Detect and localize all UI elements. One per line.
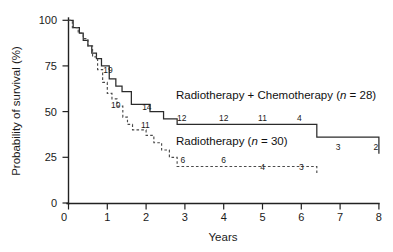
y-axis-ticks: [63, 20, 69, 203]
at-risk-count: 6: [181, 155, 186, 165]
series-label-radiotherapy-chemotherapy: Radiotherapy + Chemotherapy (n = 28): [176, 89, 376, 101]
series-label-radiotherapy: Radiotherapy (n = 30): [176, 135, 288, 147]
at-risk-count: 14: [142, 102, 152, 112]
x-axis-ticks: [69, 204, 379, 210]
at-risk-count: 3: [299, 162, 304, 172]
at-risk-count: 12: [177, 113, 187, 123]
x-tick-label-0: 0: [61, 211, 67, 223]
x-tick-label-3: 3: [182, 211, 188, 223]
survival-curve-radiotherapy-chemotherapy: [69, 20, 379, 153]
at-risk-count: 12: [219, 113, 229, 123]
at-risk-count: 10: [111, 100, 121, 110]
x-tick-label-2: 2: [143, 211, 149, 223]
y-axis-title: Probability of survival (%): [10, 46, 22, 176]
x-tick-label-1: 1: [104, 211, 110, 223]
at-risk-count: 11: [141, 120, 150, 130]
at-risk-count: 2: [373, 142, 378, 152]
at-risk-count: 11: [258, 113, 267, 123]
at-risk-count: 3: [336, 142, 341, 152]
at-risk-count: 19: [103, 65, 113, 75]
survival-chart-figure: 100 75 50 25 0 0 1 2 3 4 5 6 7 8 Years P…: [0, 0, 393, 252]
x-tick-label-7: 7: [337, 211, 343, 223]
at-risk-count: 4: [297, 113, 302, 123]
y-tick-label-50: 50: [45, 106, 57, 118]
x-tick-label-5: 5: [259, 211, 265, 223]
at-risk-count: 6: [221, 155, 226, 165]
y-tick-label-0: 0: [51, 197, 57, 209]
x-axis-title: Years: [209, 231, 238, 243]
y-tick-label-100: 100: [39, 14, 57, 26]
x-tick-label-4: 4: [221, 211, 227, 223]
x-tick-label-8: 8: [376, 211, 382, 223]
x-tick-label-6: 6: [298, 211, 304, 223]
y-tick-label-75: 75: [45, 60, 57, 72]
y-tick-label-25: 25: [45, 151, 57, 163]
chart-canvas: 100 75 50 25 0 0 1 2 3 4 5 6 7 8 Years P…: [0, 0, 393, 252]
at-risk-count: 4: [260, 162, 265, 172]
